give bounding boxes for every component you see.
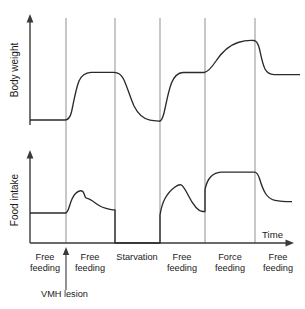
phase-label-5: Force feeding [215,252,245,273]
food-intake-curve [30,172,292,243]
body-weight-panel [27,14,300,125]
phase-label-2: Free feeding [75,252,105,273]
phase-label-4: Free feeding [167,252,197,273]
food-intake-axis-arrow-icon [27,150,34,159]
phase-label-1: Free feeding [30,252,60,273]
phase-4-line1: Free [173,252,192,262]
time-axis-arrow-icon [286,240,295,247]
phase-2-line2: feeding [75,263,105,273]
phase-label-6: Free feeding [263,252,293,273]
phase-1-line1: Free [36,252,55,262]
body-weight-axis-arrow-icon [27,14,34,23]
phase-2-line1: Free [81,252,100,262]
phase-1-line2: feeding [30,263,60,273]
vmh-lesion-label: VMH lesion [41,289,88,299]
time-axis-label: Time [262,229,283,240]
vmh-lesion-marker [63,247,69,290]
figure-canvas: Body weight Food intake Time Free feedin… [0,0,305,309]
phase-3-line1: Starvation [116,252,157,262]
vmh-lesion-figure: Body weight Food intake Time Free feedin… [0,0,305,309]
phase-label-3: Starvation [116,252,157,262]
body-weight-axis-label: Body weight [9,43,20,98]
phase-5-line2: feeding [215,263,245,273]
phase-6-line1: Free [269,252,288,262]
vmh-lesion-arrow-icon [63,247,69,255]
food-intake-axis-label: Food intake [9,173,20,226]
phase-5-line1: Force [218,252,242,262]
phase-4-line2: feeding [167,263,197,273]
phase-6-line2: feeding [263,263,293,273]
phase-labels: Free feeding Free feeding Starvation Fre… [30,252,293,273]
body-weight-curve [30,40,300,121]
